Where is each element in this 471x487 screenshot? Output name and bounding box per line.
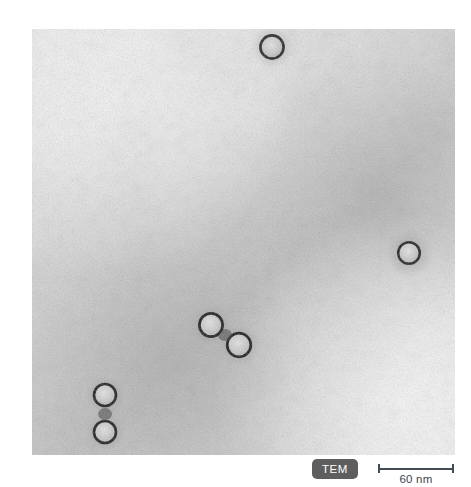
scale-bar-label: 60 nm xyxy=(377,473,455,485)
scale-bar-line xyxy=(378,464,454,473)
film-grain-layer xyxy=(32,29,455,455)
scale-bar-rule xyxy=(378,468,454,470)
modality-badge: TEM xyxy=(312,459,358,479)
electron-micrograph-image xyxy=(32,29,455,455)
figure-root: TEM 60 nm xyxy=(0,0,471,487)
scale-bar-cap-right xyxy=(452,464,454,473)
caption-bar: TEM 60 nm xyxy=(32,456,455,487)
micrograph-canvas xyxy=(32,29,455,455)
scale-bar: 60 nm xyxy=(377,456,455,487)
